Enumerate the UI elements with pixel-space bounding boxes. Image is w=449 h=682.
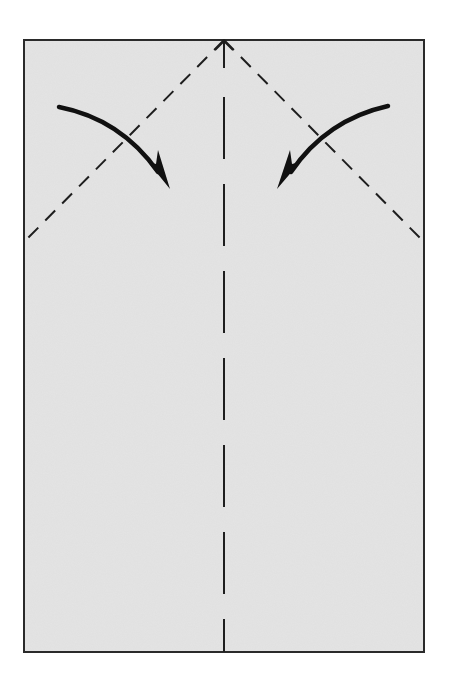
origami-fold-diagram: [0, 0, 449, 682]
